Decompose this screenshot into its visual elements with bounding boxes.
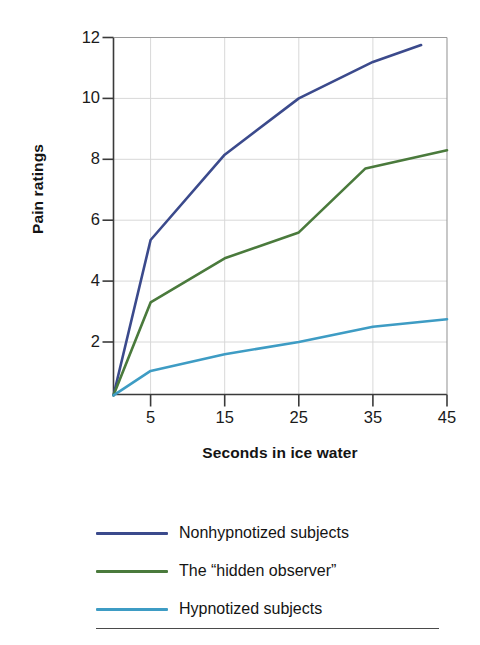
series-line-2 xyxy=(114,150,448,395)
grid-lines xyxy=(114,38,448,395)
legend-color-swatch xyxy=(96,532,168,535)
y-tick-label: 10 xyxy=(60,89,100,106)
legend-color-swatch xyxy=(96,608,168,611)
plot-frame xyxy=(114,38,448,395)
y-tick-label: 6 xyxy=(60,211,100,228)
legend-item: Nonhypnotized subjects xyxy=(96,514,436,552)
legend-item-label: Hypnotized subjects xyxy=(179,601,322,617)
x-axis-tick-labels: 515253545 xyxy=(0,409,480,435)
y-tick-label: 8 xyxy=(60,150,100,167)
legend-item-label: The “hidden observer” xyxy=(179,563,336,579)
y-axis-tick-labels: 24681012 xyxy=(48,0,100,420)
x-tick-label: 45 xyxy=(425,409,469,426)
y-axis-title: Pain ratings xyxy=(29,89,47,289)
y-tick-label: 2 xyxy=(60,333,100,350)
legend-item-label: Nonhypnotized subjects xyxy=(179,525,349,541)
legend-item: Hypnotized subjects xyxy=(96,590,436,628)
series-line-3 xyxy=(114,319,448,395)
tick-marks xyxy=(103,38,448,407)
x-tick-label: 5 xyxy=(129,409,173,426)
x-tick-label: 15 xyxy=(203,409,247,426)
legend-color-swatch xyxy=(96,570,168,573)
y-tick-label: 12 xyxy=(60,29,100,46)
x-axis-title: Seconds in ice water xyxy=(113,444,447,462)
y-tick-label: 4 xyxy=(60,272,100,289)
footer-divider xyxy=(96,628,439,629)
legend-item: The “hidden observer” xyxy=(96,552,436,590)
chart-legend: Nonhypnotized subjectsThe “hidden observ… xyxy=(96,514,436,628)
x-tick-label: 25 xyxy=(277,409,321,426)
x-tick-label: 35 xyxy=(351,409,395,426)
pain-ratings-figure: Pain ratings 24681012 515253545 Seconds … xyxy=(0,0,480,645)
